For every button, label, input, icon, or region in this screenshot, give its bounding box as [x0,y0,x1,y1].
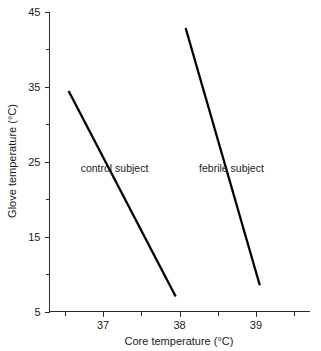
y-axis: 515253545 Glove temperature (°C) [6,6,50,318]
y-tick-label-5: 5 [34,306,40,318]
y-tick-label-15: 15 [28,231,40,243]
y-axis-major-ticks [45,13,50,313]
series-annotations: control subjectfebrile subject [81,162,264,174]
series-label-control-subject: control subject [81,162,149,174]
x-axis-title: Core temperature (°C) [125,335,234,347]
line-chart: 515253545 Glove temperature (°C) 373839 … [0,0,321,351]
y-axis-tick-labels: 515253545 [28,6,40,318]
x-axis: 373839 Core temperature (°C) [50,312,310,348]
series-line-control-subject [69,91,176,297]
series-line-febrile-subject [186,28,260,285]
y-axis-title: Glove temperature (°C) [6,104,18,218]
x-axis-major-ticks [104,312,257,317]
x-tick-label-37: 37 [97,319,109,331]
x-tick-label-38: 38 [173,319,185,331]
series-label-febrile-subject: febrile subject [199,162,264,174]
chart-figure: 515253545 Glove temperature (°C) 373839 … [0,0,321,351]
x-tick-label-39: 39 [250,319,262,331]
y-tick-label-35: 35 [28,81,40,93]
x-axis-tick-labels: 373839 [97,319,262,331]
y-tick-label-45: 45 [28,6,40,18]
y-tick-label-25: 25 [28,156,40,168]
